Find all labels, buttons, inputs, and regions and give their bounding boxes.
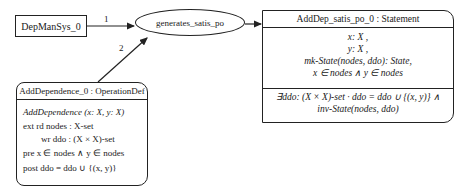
statement-conclusion: ∃ddo: (X × X)-set · ddo = ddo ∪ {(x, y)}… bbox=[263, 89, 453, 115]
operation-post: post ddo = ddo ∪ {(x, y)} bbox=[23, 161, 147, 176]
operation-ext-wr: wr ddo : (X × X)-set bbox=[23, 132, 147, 146]
depmansys-label: DepManSys_0 bbox=[21, 21, 80, 32]
edge-label-1: 1 bbox=[104, 14, 109, 24]
hypothesis-membership: x ∈ nodes ∧ y ∈ nodes bbox=[263, 67, 453, 79]
hypothesis-y: y: X , bbox=[263, 43, 453, 55]
hypothesis-x: x: X , bbox=[263, 31, 453, 43]
operation-node[interactable]: AddDependence_0 : OperationDef AddDepend… bbox=[16, 82, 148, 186]
operation-signature: AddDependence (x: X, y: X) bbox=[23, 105, 147, 120]
operation-pre: pre x ∈ nodes ∧ y ∈ nodes bbox=[23, 146, 147, 161]
generator-label: generates_satis_po bbox=[156, 18, 224, 28]
statement-node[interactable]: AddDep_satis_po_0 : Statement x: X , y: … bbox=[262, 10, 454, 123]
hypothesis-state: mk-State(nodes, ddo): State, bbox=[263, 55, 453, 67]
conclusion-line-2: inv-State(nodes, ddo) bbox=[263, 103, 453, 115]
conclusion-line-1: ∃ddo: (X × X)-set · ddo = ddo ∪ {(x, y)}… bbox=[263, 91, 453, 103]
edge-label-2: 2 bbox=[119, 43, 124, 53]
operation-ext-rd: ext rd nodes : X-set bbox=[23, 120, 147, 132]
generator-node[interactable]: generates_satis_po bbox=[135, 9, 245, 36]
statement-hypotheses: x: X , y: X , mk-State(nodes, ddo): Stat… bbox=[263, 28, 453, 89]
operation-body: AddDependence (x: X, y: X) ext rd nodes … bbox=[17, 100, 147, 176]
depmansys-node[interactable]: DepManSys_0 bbox=[15, 15, 87, 37]
statement-title: AddDep_satis_po_0 : Statement bbox=[263, 11, 453, 28]
operation-title: AddDependence_0 : OperationDef bbox=[17, 83, 147, 100]
